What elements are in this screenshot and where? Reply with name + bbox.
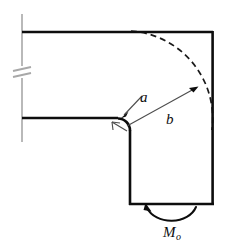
applied-moment-group: M o [144,203,197,242]
dimension-b-group: b [127,87,199,128]
dimension-a-arrowhead [121,112,129,119]
label-radius-b: b [166,111,174,127]
label-moment: M [162,224,177,240]
break-symbol-stroke-upper [13,67,31,71]
corner-centre-arrow-barb-lower [112,122,113,130]
dimension-b-line [127,89,194,126]
figure-canvas: a b M o [0,0,229,242]
elbow-beam-diagram: a b M o [0,0,229,242]
moment-arc [147,207,196,221]
label-moment-subscript: o [176,231,181,242]
corner-centre-arrow-group [112,122,127,131]
label-radius-a: a [140,89,148,105]
break-symbol-stroke-lower [13,73,31,77]
